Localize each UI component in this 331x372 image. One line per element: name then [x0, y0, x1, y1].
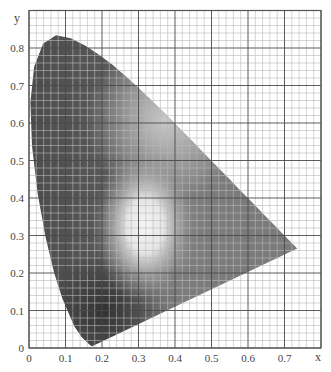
y-tick-label: 0.1	[10, 305, 24, 317]
y-axis-ticks: 00.10.20.30.40.50.60.70.8	[10, 42, 24, 354]
x-tick-label: 0.7	[278, 352, 292, 364]
y-tick-label: 0.5	[10, 155, 24, 167]
x-tick-label: 0.6	[241, 352, 255, 364]
chromaticity-chart: 00.10.20.30.40.50.60.7 00.10.20.30.40.50…	[0, 0, 331, 372]
x-tick-label: 0.5	[205, 352, 219, 364]
y-axis-label: y	[14, 11, 20, 25]
y-tick-label: 0.3	[10, 230, 24, 242]
y-tick-label: 0.7	[10, 80, 24, 92]
y-tick-label: 0.8	[10, 42, 24, 54]
y-tick-label: 0	[19, 342, 25, 354]
y-tick-label: 0.6	[10, 117, 24, 129]
x-axis-ticks: 00.10.20.30.40.50.60.7	[26, 352, 292, 364]
x-tick-label: 0	[26, 352, 32, 364]
y-tick-label: 0.2	[10, 267, 24, 279]
x-axis-label: x	[315, 350, 321, 364]
y-tick-label: 0.4	[10, 192, 24, 204]
x-tick-label: 0.4	[168, 352, 182, 364]
x-tick-label: 0.2	[95, 352, 109, 364]
x-tick-label: 0.3	[132, 352, 146, 364]
x-tick-label: 0.1	[59, 352, 73, 364]
